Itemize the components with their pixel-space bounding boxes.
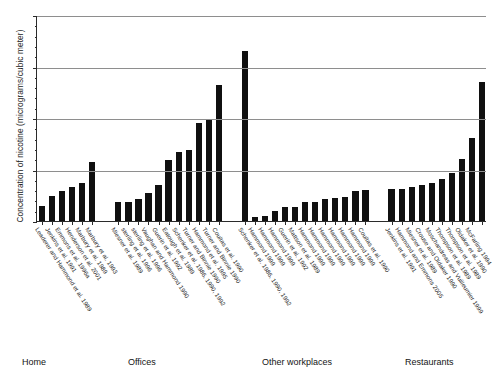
bar <box>282 207 288 221</box>
bar <box>49 196 55 221</box>
x-axis-tick <box>179 221 180 225</box>
x-axis-tick <box>462 221 463 225</box>
x-axis-tick <box>295 221 296 225</box>
x-axis-tick <box>62 221 63 225</box>
group-label-restaurants: Restaurants <box>405 357 454 367</box>
x-axis-tick <box>442 221 443 225</box>
x-axis-tick <box>245 221 246 225</box>
x-axis-tick <box>209 221 210 225</box>
x-axis-tick <box>315 221 316 225</box>
bar <box>419 185 425 221</box>
x-axis-tick <box>472 221 473 225</box>
y-axis-tick <box>33 68 37 69</box>
bar <box>272 211 278 221</box>
y-axis-tick <box>33 171 37 172</box>
bar <box>469 138 475 221</box>
x-axis-tick <box>72 221 73 225</box>
x-axis-tick <box>285 221 286 225</box>
y-axis-minor-tick <box>35 47 38 48</box>
x-axis-tick <box>82 221 83 225</box>
bar <box>216 85 222 221</box>
bar <box>352 191 358 221</box>
group-label-offices: Offices <box>128 357 156 367</box>
bar <box>439 179 445 221</box>
bar <box>125 202 131 221</box>
bar <box>292 207 298 221</box>
bar <box>429 183 435 221</box>
bar <box>388 189 394 221</box>
y-axis-minor-tick <box>35 160 38 161</box>
gridline <box>37 16 486 17</box>
group-label-home: Home <box>22 357 46 367</box>
bar <box>186 150 192 221</box>
y-axis-minor-tick <box>35 201 38 202</box>
x-axis-tick <box>199 221 200 225</box>
x-axis-labels: Leaderer and Hammond et al. 1989Jenkins … <box>36 226 492 346</box>
bar <box>59 191 65 221</box>
y-axis-minor-tick <box>35 181 38 182</box>
nicotine-concentration-bar-chart: Concentration of nicotine (micrograms/cu… <box>0 0 492 381</box>
bar <box>176 152 182 221</box>
x-axis-tick <box>265 221 266 225</box>
y-axis-tick <box>33 16 37 17</box>
group-label-other-workplaces: Other workplaces <box>262 357 332 367</box>
x-axis-tick <box>345 221 346 225</box>
plot-area: 05101520 <box>36 16 486 222</box>
bar <box>145 193 151 221</box>
bar <box>459 159 465 221</box>
x-axis-tick <box>52 221 53 225</box>
x-axis-tick <box>392 221 393 225</box>
y-axis-minor-tick <box>35 191 38 192</box>
bar <box>342 197 348 221</box>
x-axis-tick <box>325 221 326 225</box>
y-axis-minor-tick <box>35 57 38 58</box>
x-axis-tick <box>482 221 483 225</box>
x-axis-tick <box>148 221 149 225</box>
bar <box>362 190 368 221</box>
x-axis-tick <box>169 221 170 225</box>
y-axis-minor-tick <box>35 212 38 213</box>
bar <box>135 199 141 221</box>
bar <box>69 187 75 221</box>
y-axis-minor-tick <box>35 37 38 38</box>
gridline <box>37 119 486 120</box>
y-axis-minor-tick <box>35 129 38 130</box>
x-axis-tick <box>335 221 336 225</box>
x-axis-tick <box>452 221 453 225</box>
x-axis-tick <box>432 221 433 225</box>
x-axis-tick <box>42 221 43 225</box>
y-axis-tick <box>33 119 37 120</box>
y-axis-minor-tick <box>35 98 38 99</box>
bar <box>449 173 455 221</box>
y-axis-minor-tick <box>35 150 38 151</box>
bar <box>322 199 328 221</box>
bar <box>332 198 338 221</box>
x-axis-tick <box>355 221 356 225</box>
y-axis-minor-tick <box>35 78 38 79</box>
bar <box>39 206 45 221</box>
bar <box>312 202 318 221</box>
x-axis-tick <box>255 221 256 225</box>
y-axis-title: Concentration of nicotine (micrograms/cu… <box>15 17 25 235</box>
bar <box>409 187 415 221</box>
x-axis-tick <box>412 221 413 225</box>
bar <box>79 183 85 221</box>
x-axis-tick <box>159 221 160 225</box>
bar <box>479 82 485 221</box>
bar <box>115 202 121 221</box>
x-axis-tick <box>128 221 129 225</box>
x-axis-tick <box>275 221 276 225</box>
x-axis-tick <box>138 221 139 225</box>
bar <box>155 185 161 221</box>
y-axis-tick <box>33 222 37 223</box>
bar <box>242 51 248 221</box>
y-axis-minor-tick <box>35 26 38 27</box>
y-axis-minor-tick <box>35 140 38 141</box>
bar <box>165 160 171 221</box>
x-axis-tick <box>422 221 423 225</box>
x-axis-tick <box>365 221 366 225</box>
x-axis-tick <box>402 221 403 225</box>
x-axis-tick <box>118 221 119 225</box>
bar <box>196 123 202 221</box>
bar <box>399 189 405 221</box>
